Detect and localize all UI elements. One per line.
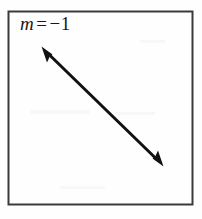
slope-operator: = [34,13,49,34]
slope-variable: m [20,13,34,34]
arrowhead-lower-right [153,151,164,167]
slope-line [42,47,164,167]
slope-value: −1 [49,13,70,34]
slope-label: m=−1 [20,13,71,35]
arrowhead-upper-left [42,47,53,63]
scan-noise [30,40,165,189]
slope-diagram-figure: m=−1 [0,0,202,219]
